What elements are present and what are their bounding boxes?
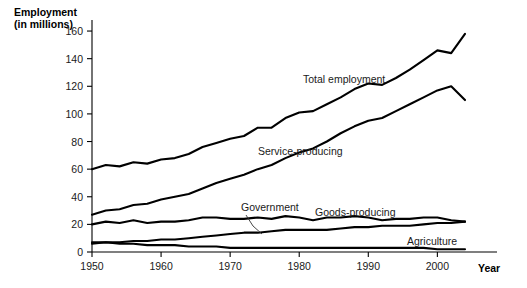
y-tick-label-20: 20 <box>71 218 83 230</box>
y-axis-title-line1: Employment <box>14 6 78 18</box>
series-label-agriculture: Agriculture <box>407 235 457 247</box>
x-tick-label-1980: 1980 <box>288 260 312 272</box>
x-axis-ticks: 195019601970198019902000 <box>80 252 449 272</box>
series-label-total-employment: Total employment <box>303 73 385 85</box>
y-tick-label-0: 0 <box>77 246 83 258</box>
y-tick-label-160: 160 <box>65 25 83 37</box>
series-label-goods-producing: Goods-producing <box>315 206 396 218</box>
y-tick-label-120: 120 <box>65 80 83 92</box>
series-lines <box>92 34 465 249</box>
y-tick-label-80: 80 <box>71 136 83 148</box>
employment-line-chart: Employment (in millions) 020406080100120… <box>0 0 527 288</box>
x-tick-label-1970: 1970 <box>218 260 242 272</box>
chart-canvas: Employment (in millions) 020406080100120… <box>0 0 527 288</box>
x-axis-title: Year <box>478 262 500 274</box>
y-tick-label-100: 100 <box>65 108 83 120</box>
x-tick-label-1950: 1950 <box>80 260 104 272</box>
x-tick-label-1960: 1960 <box>149 260 173 272</box>
y-tick-label-140: 140 <box>65 53 83 65</box>
y-tick-label-40: 40 <box>71 191 83 203</box>
y-tick-label-60: 60 <box>71 163 83 175</box>
x-tick-label-2000: 2000 <box>426 260 450 272</box>
x-tick-label-1990: 1990 <box>357 260 381 272</box>
series-label-government: Government <box>241 201 299 213</box>
series-label-service-producing: Service-producing <box>258 145 343 157</box>
series-line-goods-producing <box>92 216 465 224</box>
y-axis-ticks: 020406080100120140160 <box>65 25 92 258</box>
y-axis-title-line2: (in millions) <box>14 18 73 30</box>
